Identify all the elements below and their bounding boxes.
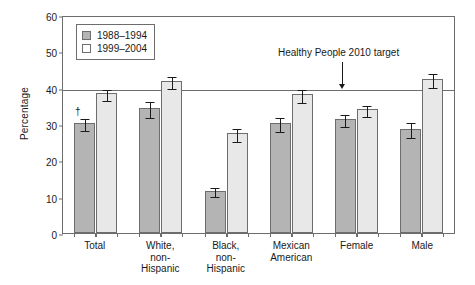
x-axis-tick-mark xyxy=(335,233,336,237)
x-axis-tick-mark xyxy=(357,233,358,237)
error-bar-cap xyxy=(341,115,350,116)
error-bar-cap xyxy=(233,129,242,130)
error-bar-cap xyxy=(102,101,111,102)
chart-figure: Percentage 0102030405060 † Healthy Peopl… xyxy=(0,0,475,285)
bar xyxy=(357,109,378,233)
x-axis-labels: TotalWhite,non-HispanicBlack,non-Hispani… xyxy=(62,240,455,275)
error-bar xyxy=(172,77,173,89)
bar xyxy=(227,133,248,233)
error-bar-cap xyxy=(167,77,176,78)
x-axis-label: MexicanAmerican xyxy=(259,240,325,275)
error-bar-cap xyxy=(102,90,111,91)
error-bar-cap xyxy=(145,118,154,119)
error-bar-cap xyxy=(276,132,285,133)
legend: 1988–1994 1999–2004 xyxy=(76,24,155,60)
error-bar xyxy=(367,106,368,118)
x-axis-tick-mark xyxy=(248,233,249,237)
bar xyxy=(139,108,160,233)
error-bar-cap xyxy=(80,119,89,120)
error-bar-cap xyxy=(167,89,176,90)
x-axis-tick-mark xyxy=(378,233,379,237)
bar xyxy=(422,79,443,233)
legend-item-1: 1999–2004 xyxy=(82,42,147,55)
error-bar-cap xyxy=(233,142,242,143)
bar-group xyxy=(193,17,258,233)
x-axis-tick-mark xyxy=(182,233,183,237)
x-axis-tick-mark xyxy=(117,233,118,237)
error-bar-cap xyxy=(428,74,437,75)
bar xyxy=(74,123,95,233)
significance-marker: † xyxy=(75,107,81,117)
error-bar xyxy=(215,188,216,197)
legend-swatch-icon xyxy=(82,31,91,40)
error-bar-cap xyxy=(363,106,372,107)
x-axis-tick-mark xyxy=(292,233,293,237)
x-axis-tick-mark xyxy=(227,233,228,237)
x-axis-tick-mark xyxy=(161,233,162,237)
x-axis-tick-mark xyxy=(96,233,97,237)
error-bar-cap xyxy=(80,131,89,132)
x-axis-label: Black,non-Hispanic xyxy=(193,240,259,275)
error-bar-cap xyxy=(298,90,307,91)
legend-swatch-icon xyxy=(82,44,91,53)
bar xyxy=(270,123,291,233)
bar xyxy=(161,81,182,233)
x-axis-label: Total xyxy=(62,240,128,275)
x-axis-tick-mark xyxy=(205,233,206,237)
error-bar-cap xyxy=(406,138,415,139)
annotation-arrow-line xyxy=(342,62,343,84)
annotation-label: Healthy People 2010 target xyxy=(278,47,399,58)
x-axis-tick-mark xyxy=(313,233,314,237)
x-axis-tick-mark xyxy=(139,233,140,237)
error-bar xyxy=(107,90,108,100)
y-axis-tick-mark xyxy=(59,235,63,236)
legend-label: 1999–2004 xyxy=(97,43,147,54)
x-axis-tick-mark xyxy=(400,233,401,237)
legend-label: 1988–1994 xyxy=(97,30,147,41)
error-bar-cap xyxy=(298,103,307,104)
error-bar-cap xyxy=(363,117,372,118)
error-bar xyxy=(433,74,434,88)
error-bar-cap xyxy=(145,102,154,103)
bar xyxy=(400,129,421,233)
bar xyxy=(335,119,356,233)
x-axis-tick-mark xyxy=(422,233,423,237)
error-bar-cap xyxy=(406,123,415,124)
error-bar-cap xyxy=(341,127,350,128)
error-bar-cap xyxy=(428,88,437,89)
error-bar xyxy=(150,102,151,118)
legend-item-0: 1988–1994 xyxy=(82,29,147,42)
x-axis-label: Male xyxy=(390,240,456,275)
error-bar xyxy=(411,123,412,138)
error-bar xyxy=(237,129,238,143)
error-bar xyxy=(302,90,303,103)
error-bar-cap xyxy=(276,118,285,119)
bar xyxy=(96,93,117,233)
error-bar xyxy=(345,115,346,127)
bar xyxy=(292,94,313,233)
error-bar xyxy=(85,119,86,131)
error-bar xyxy=(280,118,281,132)
x-axis-tick-mark xyxy=(443,233,444,237)
x-axis-label: Female xyxy=(324,240,390,275)
annotation-arrow-head-icon xyxy=(339,84,345,89)
x-axis-tick-mark xyxy=(270,233,271,237)
error-bar-cap xyxy=(211,188,220,189)
y-axis-title: Percentage xyxy=(19,44,30,184)
x-axis-label: White,non-Hispanic xyxy=(128,240,194,275)
error-bar-cap xyxy=(211,197,220,198)
x-axis-tick-mark xyxy=(74,233,75,237)
